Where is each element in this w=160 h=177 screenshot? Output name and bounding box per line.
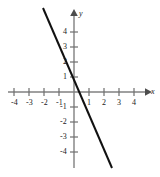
y-tick-label--4: -4 <box>60 148 67 156</box>
y-axis-arrowhead <box>70 9 78 16</box>
y-tick-label-3: 3 <box>63 43 67 51</box>
y-axis-label: y <box>79 10 83 18</box>
x-tick-label-1: 1 <box>87 99 91 107</box>
graph-canvas <box>0 0 160 177</box>
y-tick-label--1: -1 <box>60 103 67 111</box>
x-axis-label: x <box>151 88 155 96</box>
y-tick-label--2: -2 <box>60 118 67 126</box>
y-tick-label-4: 4 <box>63 28 67 36</box>
y-tick-label-1: 1 <box>63 73 67 81</box>
x-tick-label--2: -2 <box>41 99 48 107</box>
coordinate-plane-figure: -4 -3 -2 -1 1 2 3 4 4 3 2 1 -1 -2 -3 -4 … <box>0 0 160 177</box>
x-tick-label-3: 3 <box>117 99 121 107</box>
y-tick-label-2: 2 <box>63 58 67 66</box>
x-tick-label--4: -4 <box>11 99 18 107</box>
x-tick-label--3: -3 <box>26 99 33 107</box>
x-tick-label-2: 2 <box>102 99 106 107</box>
x-tick-label-4: 4 <box>132 99 136 107</box>
y-tick-label--3: -3 <box>60 133 67 141</box>
